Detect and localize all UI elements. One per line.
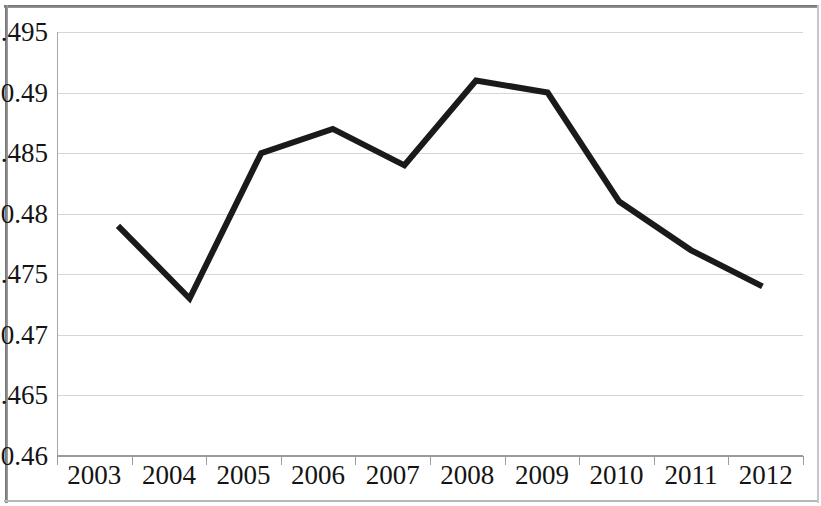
x-axis-tick-label: 2003 — [67, 462, 121, 489]
y-axis-tick-label: 0.465 — [0, 382, 48, 409]
chart-figure: 0.460.4650.470.4750.480.4850.490.495 200… — [0, 0, 821, 506]
x-axis-tick-label: 2005 — [217, 462, 271, 489]
y-axis-tick-label: 0.48 — [0, 200, 48, 227]
x-axis-tick-label: 2004 — [142, 462, 196, 489]
y-axis-tick-label: 0.49 — [0, 79, 48, 106]
x-axis-tick-label: 2012 — [739, 462, 793, 489]
x-axis-tick — [803, 456, 804, 465]
y-axis-tick-label: 0.475 — [0, 261, 48, 288]
x-axis-tick-label: 2009 — [515, 462, 569, 489]
x-axis-tick-label: 2006 — [291, 462, 345, 489]
y-axis-tick-label: 0.47 — [0, 321, 48, 348]
x-axis-tick-label: 2010 — [590, 462, 644, 489]
x-axis-tick-label: 2011 — [665, 462, 718, 489]
y-axis-tick-label: 0.485 — [0, 140, 48, 167]
figure-border-top — [4, 5, 819, 8]
y-axis-tick-label: 0.495 — [0, 19, 48, 46]
y-axis-tick-label: 0.46 — [0, 443, 48, 470]
x-axis-tick-label: 2007 — [366, 462, 420, 489]
x-axis-tick-label: 2008 — [440, 462, 494, 489]
plot-area — [57, 32, 803, 456]
line-series — [57, 32, 803, 456]
figure-border-right — [817, 5, 819, 503]
y-axis-tick-labels: 0.460.4650.470.4750.480.4850.490.495 — [0, 32, 48, 456]
x-axis-tick-labels: 2003200420052006200720082009201020112012 — [57, 462, 803, 502]
